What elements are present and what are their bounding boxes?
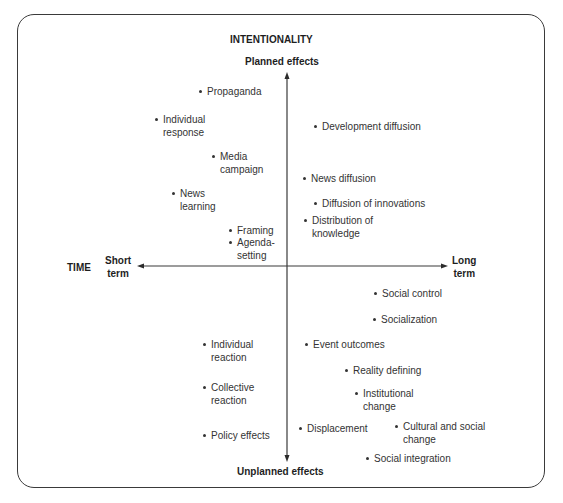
item-cultural-and-social-change: Cultural and social change bbox=[395, 420, 485, 446]
item-displacement: Displacement bbox=[299, 422, 368, 435]
item-label: Distribution of bbox=[312, 215, 373, 226]
item-development-diffusion: Development diffusion bbox=[314, 120, 421, 133]
item-news-diffusion: News diffusion bbox=[303, 172, 376, 185]
item-individual-response: Individual response bbox=[155, 113, 205, 139]
item-policy-effects: Policy effects bbox=[203, 429, 270, 442]
item-label: Displacement bbox=[307, 423, 368, 434]
item-news-learning: News learning bbox=[172, 187, 216, 213]
bullet-icon bbox=[229, 229, 232, 232]
planned-effects-label: Planned effects bbox=[245, 55, 319, 68]
item-label: Social control bbox=[382, 288, 442, 299]
item-individual-reaction: Individual reaction bbox=[203, 338, 253, 364]
item-reality-defining: Reality defining bbox=[345, 364, 421, 377]
item-collective-reaction: Collective reaction bbox=[203, 381, 254, 407]
item-label: News diffusion bbox=[311, 173, 376, 184]
item-agenda-setting: Agenda- setting bbox=[229, 236, 275, 262]
vertical-axis bbox=[285, 72, 290, 462]
bullet-icon bbox=[355, 392, 358, 395]
item-propaganda: Propaganda bbox=[199, 85, 262, 98]
horizontal-axis bbox=[137, 264, 448, 269]
item-label: Media bbox=[220, 151, 247, 162]
unplanned-effects-label: Unplanned effects bbox=[237, 465, 324, 478]
item-label: Socialization bbox=[381, 314, 437, 325]
item-label: Collective bbox=[211, 382, 254, 393]
bullet-icon bbox=[366, 457, 369, 460]
item-social-integration: Social integration bbox=[366, 452, 451, 465]
bullet-icon bbox=[299, 427, 302, 430]
bullet-icon bbox=[203, 343, 206, 346]
bullet-icon bbox=[203, 434, 206, 437]
item-label: Individual bbox=[163, 114, 205, 125]
bullet-icon bbox=[155, 118, 158, 121]
item-institutional-change: Institutional change bbox=[355, 387, 414, 413]
diagram-title: INTENTIONALITY bbox=[230, 33, 313, 46]
bullet-icon bbox=[303, 177, 306, 180]
bullet-icon bbox=[395, 425, 398, 428]
item-media-campaign: Media campaign bbox=[212, 150, 263, 176]
item-distribution-of-knowledge: Distribution of knowledge bbox=[304, 214, 373, 240]
item-label-line2: change bbox=[395, 433, 485, 446]
item-label: Propaganda bbox=[207, 86, 262, 97]
item-label-line2: change bbox=[355, 400, 414, 413]
item-label: Institutional bbox=[363, 388, 414, 399]
bullet-icon bbox=[172, 192, 175, 195]
item-socialization: Socialization bbox=[373, 313, 437, 326]
arrow-right-icon bbox=[441, 264, 448, 269]
arrow-left-icon bbox=[137, 264, 144, 269]
bullet-icon bbox=[199, 90, 202, 93]
short-term-line1: Short bbox=[105, 254, 131, 267]
item-label-line2: campaign bbox=[212, 163, 263, 176]
bullet-icon bbox=[212, 155, 215, 158]
item-label: Diffusion of innovations bbox=[322, 198, 425, 209]
bullet-icon bbox=[305, 343, 308, 346]
bullet-icon bbox=[374, 292, 377, 295]
time-axis-label: TIME bbox=[67, 261, 91, 274]
item-label: Event outcomes bbox=[313, 339, 385, 350]
item-label-line2: response bbox=[155, 126, 205, 139]
arrow-up-icon bbox=[285, 72, 290, 79]
item-label: Agenda- bbox=[237, 237, 275, 248]
bullet-icon bbox=[373, 318, 376, 321]
item-label: Cultural and social bbox=[403, 421, 485, 432]
item-label: Individual bbox=[211, 339, 253, 350]
bullet-icon bbox=[304, 219, 307, 222]
short-term-label: Short term bbox=[105, 254, 131, 280]
item-label: Development diffusion bbox=[322, 121, 421, 132]
item-label: Reality defining bbox=[353, 365, 421, 376]
item-diffusion-of-innovations: Diffusion of innovations bbox=[314, 197, 425, 210]
item-label: Policy effects bbox=[211, 430, 270, 441]
bullet-icon bbox=[314, 125, 317, 128]
long-term-line2: term bbox=[452, 267, 476, 280]
bullet-icon bbox=[229, 241, 232, 244]
item-label-line2: reaction bbox=[203, 394, 254, 407]
bullet-icon bbox=[203, 386, 206, 389]
item-label: Social integration bbox=[374, 453, 451, 464]
long-term-label: Long term bbox=[452, 254, 476, 280]
item-label-line2: knowledge bbox=[304, 227, 373, 240]
item-label-line2: reaction bbox=[203, 351, 253, 364]
arrow-down-icon bbox=[285, 455, 290, 462]
item-event-outcomes: Event outcomes bbox=[305, 338, 385, 351]
item-label: Framing bbox=[237, 225, 274, 236]
item-label-line2: learning bbox=[172, 200, 216, 213]
long-term-line1: Long bbox=[452, 254, 476, 267]
short-term-line2: term bbox=[105, 267, 131, 280]
bullet-icon bbox=[314, 202, 317, 205]
item-social-control: Social control bbox=[374, 287, 442, 300]
bullet-icon bbox=[345, 369, 348, 372]
item-label-line2: setting bbox=[229, 249, 275, 262]
item-label: News bbox=[180, 188, 205, 199]
